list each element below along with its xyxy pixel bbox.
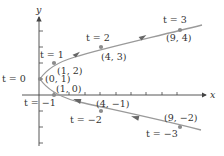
coord-label-9-neg2: (9, −2) — [164, 112, 198, 123]
t-label-3: t = 3 — [163, 14, 187, 25]
t-label-1: t = 1 — [40, 49, 64, 60]
coordinate-labels: (9, 4) (4, 3) (1, 2) (0, 1) (1, 0) (4, −… — [45, 32, 198, 123]
x-axis-label: x — [210, 89, 216, 100]
point-t-neg3 — [178, 125, 182, 129]
coord-label-4-neg1: (4, −1) — [96, 98, 130, 109]
y-axis-ticks — [39, 31, 43, 143]
t-label-neg3: t = −3 — [146, 128, 178, 139]
coord-label-1-0: (1, 0) — [56, 83, 82, 94]
coord-label-9-4: (9, 4) — [166, 32, 192, 43]
coord-label-4-3: (4, 3) — [101, 51, 127, 62]
t-label-neg1: t = −1 — [24, 97, 56, 108]
point-t-neg2 — [99, 109, 103, 113]
point-t-1 — [52, 61, 56, 65]
point-t-0 — [38, 77, 42, 81]
point-t-2 — [99, 45, 103, 49]
t-label-0: t = 0 — [2, 73, 26, 84]
parametric-curve-diagram: x y t = 3 t = 2 — [0, 0, 224, 156]
y-axis: y — [35, 4, 43, 146]
y-axis-label: y — [35, 4, 42, 15]
t-label-neg2: t = −2 — [70, 114, 102, 125]
t-label-2: t = 2 — [86, 32, 110, 43]
